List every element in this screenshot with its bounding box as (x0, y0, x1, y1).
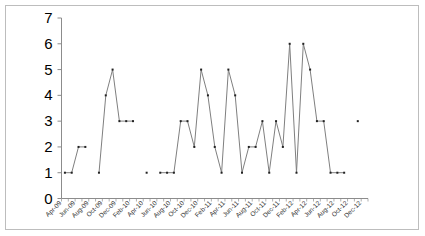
data-point-marker (118, 120, 120, 122)
data-point-marker (221, 172, 223, 174)
series-line (65, 147, 85, 173)
data-point-marker (248, 146, 250, 148)
data-point-marker (255, 146, 257, 148)
data-point-marker (180, 120, 182, 122)
data-point-marker (309, 69, 311, 71)
data-point-marker (289, 43, 291, 45)
data-point-marker (261, 120, 263, 122)
series-line (160, 44, 344, 173)
data-point-marker (241, 172, 243, 174)
y-tick-label: 4 (44, 86, 52, 103)
data-point-marker (125, 120, 127, 122)
data-point-marker (357, 120, 359, 122)
y-tick-label: 3 (44, 112, 52, 129)
data-point-marker (166, 172, 168, 174)
y-tick-label: 5 (44, 61, 52, 78)
line-chart: 01234567Apr-09Jun-09Aug-09Oct-09Dec-09Fe… (0, 0, 425, 236)
data-point-marker (282, 146, 284, 148)
data-point-marker (193, 146, 195, 148)
data-point-marker (105, 94, 107, 96)
data-point-marker (336, 172, 338, 174)
data-point-marker (112, 69, 114, 71)
data-point-marker (159, 172, 161, 174)
y-tick-label: 7 (44, 9, 52, 26)
y-tick-label: 0 (44, 190, 52, 207)
data-point-marker (295, 172, 297, 174)
y-tick-label: 1 (44, 164, 52, 181)
data-point-marker (330, 172, 332, 174)
data-point-marker (214, 146, 216, 148)
data-point-marker (207, 94, 209, 96)
data-point-marker (323, 120, 325, 122)
data-point-marker (275, 120, 277, 122)
data-point-marker (78, 146, 80, 148)
data-point-marker (343, 172, 345, 174)
data-point-marker (71, 172, 73, 174)
y-tick-label: 6 (44, 35, 52, 52)
y-tick-label: 2 (44, 138, 52, 155)
data-point-marker (268, 172, 270, 174)
data-point-marker (200, 69, 202, 71)
data-point-marker (84, 146, 86, 148)
data-point-marker (316, 120, 318, 122)
data-point-marker (234, 94, 236, 96)
series-line (99, 70, 133, 173)
data-point-marker (227, 69, 229, 71)
data-point-marker (64, 172, 66, 174)
data-point-marker (173, 172, 175, 174)
data-point-marker (132, 120, 134, 122)
data-point-marker (187, 120, 189, 122)
data-point-marker (302, 43, 304, 45)
data-point-marker (98, 172, 100, 174)
data-point-marker (146, 172, 148, 174)
